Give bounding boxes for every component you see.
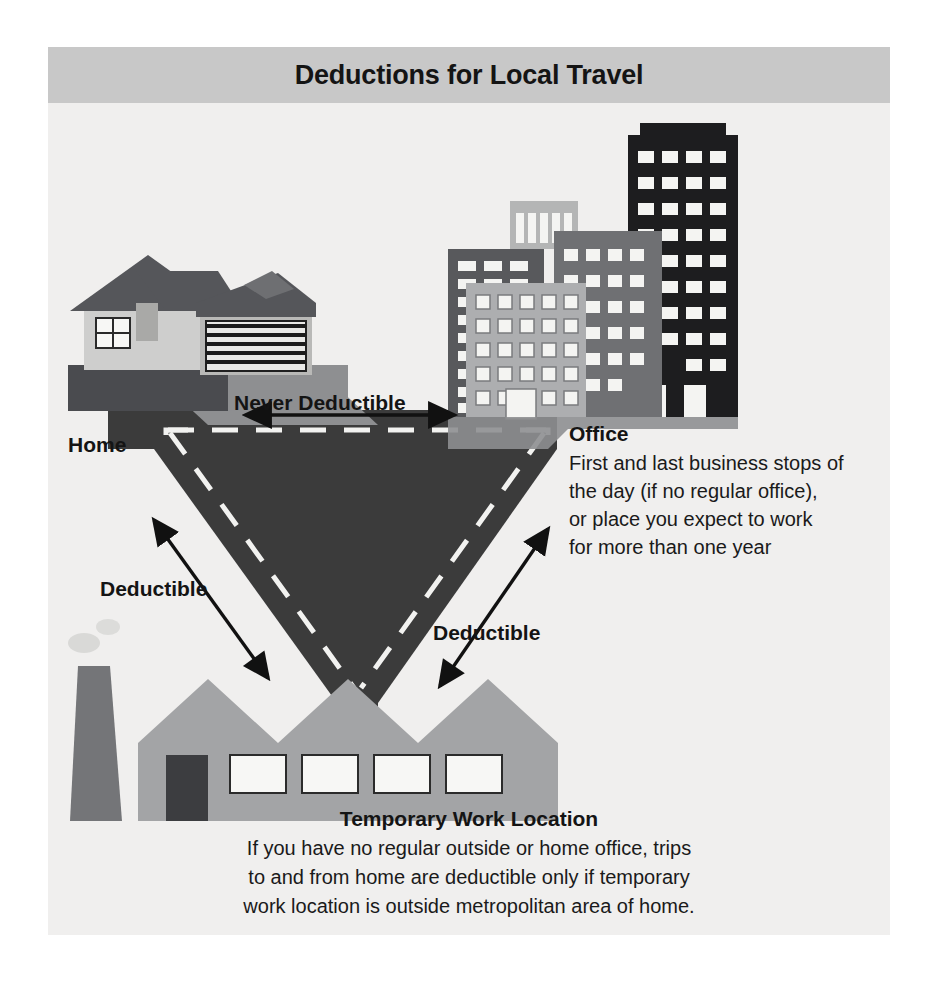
page-title: Deductions for Local Travel (48, 47, 890, 103)
label-deductible-right: Deductible (433, 621, 540, 645)
office-line-4: for more than one year (569, 533, 889, 561)
temporary-line-3: work location is outside metropolitan ar… (48, 892, 890, 921)
office-heading: Office (569, 421, 889, 447)
figure-panel: Deductions for Local Travel (48, 47, 890, 935)
temporary-heading: Temporary Work Location (48, 805, 890, 833)
office-buildings-icon (448, 123, 738, 419)
temporary-line-1: If you have no regular outside or home o… (48, 834, 890, 863)
office-entrance-icon (506, 389, 536, 419)
label-home: Home (68, 433, 126, 457)
tower-front-light (466, 283, 586, 419)
diagram-canvas: Home Never Deductible Deductible Deducti… (48, 103, 890, 935)
road-triangle-icon (108, 410, 557, 715)
label-never-deductible: Never Deductible (234, 391, 406, 415)
office-line-3: or place you expect to work (569, 505, 889, 533)
chimney-icon (70, 666, 122, 821)
office-callout: Office First and last business stops of … (569, 421, 889, 561)
page-root: Deductions for Local Travel (0, 0, 931, 993)
temporary-callout: Temporary Work Location If you have no r… (48, 805, 890, 921)
office-line-2: the day (if no regular office), (569, 477, 889, 505)
temporary-line-2: to and from home are deductible only if … (48, 863, 890, 892)
label-deductible-left: Deductible (100, 577, 207, 601)
office-line-1: First and last business stops of (569, 449, 889, 477)
garage-icon (206, 321, 306, 371)
